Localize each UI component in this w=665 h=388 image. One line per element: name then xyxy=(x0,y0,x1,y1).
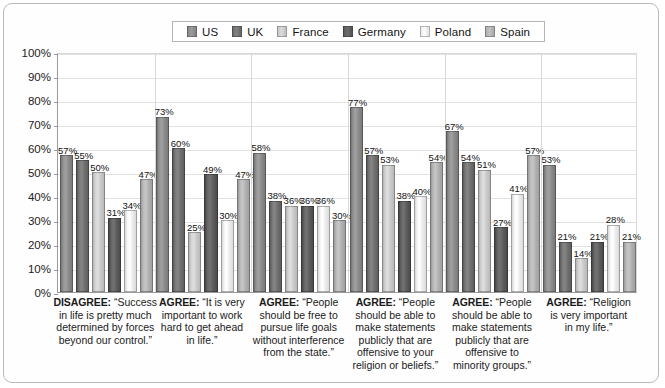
bar-germany[interactable]: 27% xyxy=(494,227,507,292)
bar-value-label: 53% xyxy=(541,155,560,165)
bar-slot: 30% xyxy=(221,54,234,292)
bar-germany[interactable]: 31% xyxy=(108,218,121,292)
bar-poland[interactable]: 41% xyxy=(511,194,524,292)
bar-group: 53%21%14%21%28%21% xyxy=(541,54,638,292)
bar-poland[interactable]: 36% xyxy=(317,206,330,292)
y-axis-tick-label: 40% xyxy=(28,192,51,204)
bar-value-label: 21% xyxy=(557,232,576,242)
bar-value-label: 25% xyxy=(187,223,206,233)
bar-value-label: 28% xyxy=(606,215,625,225)
y-axis-tick-label: 20% xyxy=(28,240,51,252)
bar-germany[interactable]: 49% xyxy=(204,174,217,292)
bar-slot: 53% xyxy=(382,54,395,292)
bar-slot: 38% xyxy=(269,54,282,292)
bar-france[interactable]: 36% xyxy=(285,206,298,292)
x-axis-category-prefix: AGREE: xyxy=(159,296,199,308)
bar-slot: 49% xyxy=(204,54,217,292)
bar-us[interactable]: 73% xyxy=(156,117,169,292)
bar-value-label: 27% xyxy=(493,218,512,228)
bar-poland[interactable]: 34% xyxy=(124,210,137,292)
bar-value-label: 21% xyxy=(622,232,641,242)
bar-uk[interactable]: 54% xyxy=(462,162,475,292)
bar-france[interactable]: 53% xyxy=(382,165,395,292)
bar-slot: 36% xyxy=(301,54,314,292)
bar-us[interactable]: 77% xyxy=(350,107,363,292)
legend-label: France xyxy=(292,26,328,38)
legend-swatch-icon xyxy=(420,26,430,37)
bar-spain[interactable]: 54% xyxy=(430,162,443,292)
x-axis-category-prefix: AGREE: xyxy=(259,296,299,308)
bar-value-label: 40% xyxy=(412,187,431,197)
bar-value-label: 36% xyxy=(316,196,335,206)
chart-legend: USUKFranceGermanyPolandSpain xyxy=(172,21,545,42)
bar-slot: 57% xyxy=(527,54,540,292)
bar-us[interactable]: 57% xyxy=(60,155,73,292)
y-axis-tick-label: 10% xyxy=(28,264,51,276)
bar-value-label: 53% xyxy=(380,155,399,165)
bar-us[interactable]: 53% xyxy=(543,165,556,292)
legend-swatch-icon xyxy=(187,26,197,37)
bar-slot: 57% xyxy=(60,54,73,292)
bar-poland[interactable]: 40% xyxy=(414,196,427,292)
bar-spain[interactable]: 21% xyxy=(623,242,636,292)
bar-group: 57%55%50%31%34%47% xyxy=(58,54,155,292)
bar-uk[interactable]: 57% xyxy=(366,155,379,292)
x-axis-labels: DISAGREE: “Successin life is pretty much… xyxy=(57,296,637,378)
bar-us[interactable]: 58% xyxy=(253,153,266,292)
bar-slot: 25% xyxy=(188,54,201,292)
bar-spain[interactable]: 47% xyxy=(237,179,250,292)
x-axis-category-label: DISAGREE: “Successin life is pretty much… xyxy=(53,296,158,346)
bar-germany[interactable]: 38% xyxy=(398,201,411,292)
bar-slot: 34% xyxy=(124,54,137,292)
bar-france[interactable]: 51% xyxy=(478,170,491,292)
bar-germany[interactable]: 21% xyxy=(591,242,604,292)
bar-slot: 36% xyxy=(285,54,298,292)
bar-poland[interactable]: 30% xyxy=(221,220,234,292)
x-axis-category-label: AGREE: “Peopleshould be free topursue li… xyxy=(246,296,351,359)
bar-value-label: 60% xyxy=(171,139,190,149)
bar-uk[interactable]: 55% xyxy=(76,160,89,292)
bar-spain[interactable]: 47% xyxy=(140,179,153,292)
y-axis-tick-label: 70% xyxy=(28,120,51,132)
bar-france[interactable]: 25% xyxy=(188,232,201,292)
bar-slot: 55% xyxy=(76,54,89,292)
bar-spain[interactable]: 57% xyxy=(527,155,540,292)
legend-item-germany[interactable]: Germany xyxy=(343,26,406,38)
legend-label: UK xyxy=(247,26,263,38)
bar-value-label: 30% xyxy=(219,211,238,221)
bar-uk[interactable]: 38% xyxy=(269,201,282,292)
bar-poland[interactable]: 28% xyxy=(607,225,620,292)
legend-label: US xyxy=(202,26,218,38)
bar-slot: 27% xyxy=(494,54,507,292)
bar-slot: 53% xyxy=(543,54,556,292)
bar-slot: 38% xyxy=(398,54,411,292)
bar-slot: 54% xyxy=(430,54,443,292)
bar-slot: 28% xyxy=(607,54,620,292)
bar-france[interactable]: 50% xyxy=(92,172,105,292)
legend-item-us[interactable]: US xyxy=(187,26,218,38)
bar-group: 67%54%51%27%41%57% xyxy=(445,54,542,292)
bar-us[interactable]: 67% xyxy=(446,131,459,292)
bar-group: 58%38%36%36%36%30% xyxy=(251,54,348,292)
x-axis-category-label: AGREE: “Peopleshould be able tomake stat… xyxy=(343,296,448,372)
bar-germany[interactable]: 36% xyxy=(301,206,314,292)
bar-france[interactable]: 14% xyxy=(575,258,588,292)
bar-slot: 54% xyxy=(462,54,475,292)
bar-group: 77%57%53%38%40%54% xyxy=(348,54,445,292)
legend-item-france[interactable]: France xyxy=(277,26,328,38)
bar-uk[interactable]: 60% xyxy=(172,148,185,292)
x-axis-category-prefix: DISAGREE: xyxy=(54,296,111,308)
bar-slot: 21% xyxy=(559,54,572,292)
bar-slot: 41% xyxy=(511,54,524,292)
bar-value-label: 51% xyxy=(477,160,496,170)
x-axis-category-label: AGREE: “Peopleshould be able tomake stat… xyxy=(440,296,545,372)
bar-slot: 21% xyxy=(591,54,604,292)
bar-slot: 47% xyxy=(140,54,153,292)
bar-spain[interactable]: 30% xyxy=(333,220,346,292)
legend-item-poland[interactable]: Poland xyxy=(420,26,471,38)
legend-item-spain[interactable]: Spain xyxy=(485,26,530,38)
legend-item-uk[interactable]: UK xyxy=(232,26,263,38)
legend-label: Poland xyxy=(435,26,471,38)
bar-uk[interactable]: 21% xyxy=(559,242,572,292)
legend-swatch-icon xyxy=(485,26,495,37)
